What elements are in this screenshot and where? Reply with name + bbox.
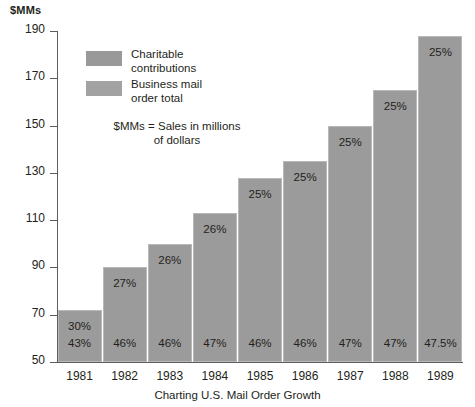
legend-item-business-mail-order-total: Business mail order total (86, 79, 266, 109)
bar: 46%27% (103, 267, 147, 362)
y-tick-label: 150 (25, 117, 45, 131)
bar: 47%25% (328, 126, 372, 362)
y-tick-label: 130 (25, 164, 45, 178)
x-axis-label: 1981 (57, 369, 102, 383)
bar: 43%30% (58, 310, 102, 362)
legend-note-line-2: of dollars (154, 134, 201, 146)
bar-label-upper: 25% (374, 100, 416, 112)
y-tick-mark (50, 220, 57, 221)
bar-label-upper: 25% (239, 188, 281, 200)
x-axis-label: 1983 (147, 369, 192, 383)
bar-label-upper: 27% (104, 277, 146, 289)
bar-label-lower: 46% (149, 337, 191, 349)
bar-label-lower: 43% (59, 337, 101, 349)
bar-label-lower: 46% (104, 337, 146, 349)
legend-note-line-1: $MMs = Sales in millions (114, 120, 241, 132)
x-axis-label: 1985 (237, 369, 282, 383)
bar-label-lower: 46% (239, 337, 281, 349)
legend-label-business-mail-order-total: Business mail order total (131, 77, 261, 105)
bar-label-upper: 25% (329, 136, 371, 148)
legend-swatch-business-mail-order-total (86, 81, 122, 96)
y-tick-label: 70 (32, 306, 45, 320)
legend-item-charitable-contributions: Charitable contributions (86, 49, 266, 79)
bar-label-lower: 47.5% (419, 337, 461, 349)
x-axis-label: 1988 (373, 369, 418, 383)
x-axis-label: 1984 (192, 369, 237, 383)
legend-note: $MMs = Sales in millions of dollars (77, 119, 277, 147)
y-tick-mark (50, 31, 57, 32)
x-axis-label: 1986 (283, 369, 328, 383)
x-axis-label: 1987 (328, 369, 373, 383)
bar-label-upper: 25% (284, 171, 326, 183)
bar: 47%26% (193, 213, 237, 362)
y-tick-mark (50, 267, 57, 268)
chart-legend: Charitable contributions Business mail o… (86, 49, 266, 109)
legend-label-line-2: contributions (131, 62, 196, 74)
y-tick-label: 110 (26, 211, 45, 225)
y-tick-mark (50, 78, 57, 79)
bar-label-upper: 30% (59, 320, 101, 332)
bar-label-upper: 26% (194, 223, 236, 235)
x-axis-label: 1989 (418, 369, 463, 383)
legend-label-line-1: Charitable (131, 48, 183, 60)
bar-label-lower: 47% (194, 337, 236, 349)
y-tick-mark (50, 362, 57, 363)
x-axis-label: 1982 (102, 369, 147, 383)
bar-chart: $MMs 507090110130150170190 43%30%46%27%4… (0, 0, 475, 407)
bar-label-lower: 47% (374, 337, 416, 349)
legend-swatch-charitable-contributions (86, 51, 122, 66)
y-tick-mark (50, 173, 57, 174)
bar-label-lower: 47% (329, 337, 371, 349)
legend-label-charitable-contributions: Charitable contributions (131, 47, 261, 75)
x-axis-line (57, 362, 463, 363)
legend-label-line-2: order total (131, 92, 183, 104)
bar-label-lower: 46% (284, 337, 326, 349)
y-tick-mark (50, 126, 57, 127)
bar: 46%26% (148, 244, 192, 362)
bar: 47%25% (373, 90, 417, 362)
bar: 46%25% (238, 178, 282, 362)
y-tick-mark (50, 315, 57, 316)
y-tick-label: 90 (32, 258, 45, 272)
y-tick-label: 50 (32, 353, 45, 367)
y-axis-title: $MMs (10, 4, 41, 16)
legend-label-line-1: Business mail (131, 78, 202, 90)
y-tick-label: 190 (25, 22, 45, 36)
bar: 46%25% (283, 161, 327, 362)
bar: 47.5%25% (418, 36, 462, 362)
bar-label-upper: 26% (149, 254, 191, 266)
y-tick-label: 170 (25, 69, 45, 83)
bar-label-upper: 25% (419, 46, 461, 58)
chart-caption: Charting U.S. Mail Order Growth (0, 389, 475, 401)
